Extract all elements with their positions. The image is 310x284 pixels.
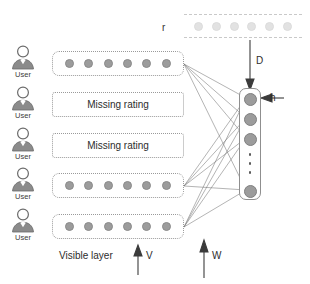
ellipsis-dot (249, 153, 252, 156)
user-label: User (5, 111, 41, 120)
rating-node (123, 222, 132, 231)
arrow-w (200, 240, 208, 278)
rating-node (142, 222, 151, 231)
hidden-label-h: h (270, 92, 276, 103)
missing-rating-label: Missing rating (87, 140, 149, 151)
hidden-node (244, 93, 257, 106)
visible-row-missing: Missing rating (52, 133, 184, 158)
visible-layer-label: Visible layer (59, 250, 113, 261)
user-icon (10, 126, 36, 152)
rating-node (104, 59, 113, 68)
hidden-layer (239, 88, 261, 200)
user-label: User (5, 70, 41, 79)
arrow-v (134, 245, 142, 275)
ellipsis-dot (249, 162, 252, 165)
rating-node (123, 181, 132, 190)
r-node (283, 22, 292, 31)
hidden-node (244, 185, 257, 198)
rating-node (65, 181, 74, 190)
user-label: User (5, 152, 41, 161)
user-block: User (5, 126, 41, 161)
hidden-node (244, 113, 257, 126)
visible-row-ratings (52, 173, 184, 198)
reconstruction-layer (184, 14, 302, 38)
rating-node (142, 59, 151, 68)
rating-node (162, 222, 171, 231)
weight-label-w: W (212, 250, 221, 261)
user-icon (10, 207, 36, 233)
arrow-d (246, 40, 254, 90)
rating-node (84, 181, 93, 190)
user-icon (10, 44, 36, 70)
rating-node (123, 59, 132, 68)
r-node (194, 22, 203, 31)
visible-row-ratings (52, 214, 184, 239)
user-block: User (5, 207, 41, 242)
diagram-canvas: r User User User (0, 0, 310, 284)
reconstruction-label: r (162, 22, 165, 33)
rating-node (84, 222, 93, 231)
missing-rating-label: Missing rating (87, 99, 149, 110)
rating-node (142, 181, 151, 190)
user-label: User (5, 192, 41, 201)
r-node (247, 22, 256, 31)
rating-node (104, 222, 113, 231)
rating-node (162, 181, 171, 190)
r-node (265, 22, 274, 31)
rating-node (162, 59, 171, 68)
weight-label-d: D (256, 55, 263, 66)
visible-row-ratings (52, 51, 184, 76)
ellipsis-dot (249, 171, 252, 174)
hidden-node (244, 133, 257, 146)
user-icon (10, 166, 36, 192)
user-block: User (5, 166, 41, 201)
user-label: User (5, 233, 41, 242)
r-node (212, 22, 221, 31)
user-block: User (5, 85, 41, 120)
rating-node (65, 222, 74, 231)
user-block: User (5, 44, 41, 79)
rating-node (65, 59, 74, 68)
r-node (230, 22, 239, 31)
rating-node (84, 59, 93, 68)
rating-node (104, 181, 113, 190)
visible-row-missing: Missing rating (52, 92, 184, 117)
user-icon (10, 85, 36, 111)
weight-label-v: V (146, 250, 153, 261)
